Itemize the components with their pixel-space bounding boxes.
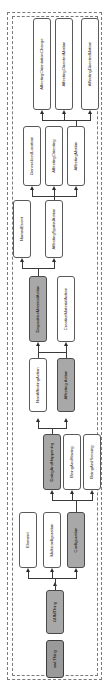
node-non-affecting-action[interactable]: NonAffectingAction bbox=[29, 358, 47, 412]
node-label: NonAffectingAction bbox=[36, 367, 40, 403]
edge-to-dispositive bbox=[38, 346, 39, 353]
node-label: Affecting Action bbox=[64, 371, 68, 400]
arrowhead-beingandsensing bbox=[90, 490, 94, 494]
edge-to-creative bbox=[66, 346, 67, 353]
node-affecting-motion[interactable]: AffectingMotion bbox=[67, 126, 85, 186]
node-label: BeingAndHaving bbox=[70, 446, 74, 477]
node-label: owl:Thing bbox=[53, 650, 57, 668]
arrowhead-element bbox=[26, 568, 30, 572]
diagram-canvas: AffectingOrientationChange AffectingOrie… bbox=[0, 0, 109, 700]
node-being-and-having[interactable]: BeingAndHaving bbox=[63, 434, 81, 490]
node-affecting-oriented-motion[interactable]: AffectingOrientedMotion bbox=[55, 18, 73, 110]
arrowhead-affectingorienting bbox=[52, 186, 56, 190]
node-label: AffectingOrientedMotion bbox=[62, 42, 66, 87]
node-affecting-spatial-action[interactable]: AffectingSpatialAction bbox=[45, 200, 63, 258]
arrowhead-dispositivematerialaction bbox=[36, 342, 40, 346]
arrowhead-configuration bbox=[74, 568, 78, 572]
node-gum-thing[interactable]: GUMThing bbox=[46, 590, 64, 634]
edge-to-orientationchange bbox=[42, 114, 43, 121]
node-generalized-location[interactable]: GeneralizedLocation bbox=[23, 126, 41, 186]
node-label: GeneralizedLocation bbox=[30, 137, 34, 175]
arrowhead-generalizedlocation bbox=[30, 186, 34, 190]
edge-configuration-up bbox=[76, 500, 77, 512]
node-label: AffectingOrientationChange bbox=[40, 38, 44, 89]
node-label: Configuration bbox=[74, 528, 78, 553]
node-label: BeingAndSensing bbox=[90, 445, 94, 478]
node-doing-and-happening[interactable]: DoingAndHappening bbox=[43, 434, 61, 490]
node-label: DispositiveMaterialAction bbox=[36, 286, 40, 333]
node-affecting-orientation-change[interactable]: AffectingOrientationChange bbox=[33, 18, 51, 110]
diagram-inner-frame bbox=[12, 16, 98, 676]
node-owl-thing[interactable]: owl:Thing bbox=[46, 640, 64, 678]
edge-to-generalizedlocation bbox=[32, 190, 33, 197]
arrowhead-namedevent bbox=[20, 258, 24, 262]
edge-to-nonaffectingaction bbox=[38, 422, 39, 429]
edge-to-beingandsensing bbox=[92, 494, 93, 501]
edge-to-namedevent bbox=[22, 262, 23, 269]
node-creative-material-action[interactable]: CreativeMaterialAction bbox=[57, 276, 75, 342]
edge-to-configuration bbox=[76, 572, 77, 579]
arrowhead-creativematerialaction bbox=[64, 342, 68, 346]
arrowhead-affectingspatialaction bbox=[52, 258, 56, 262]
arrowhead-affectingorientationchange bbox=[40, 110, 44, 114]
arrowhead-affectingaction bbox=[64, 418, 68, 422]
node-being-and-sensing[interactable]: BeingAndSensing bbox=[83, 434, 101, 490]
node-named-event[interactable]: NamedEvent bbox=[13, 200, 31, 258]
edge-doingandhappening-bus bbox=[38, 428, 66, 429]
edge-to-affectingspatialaction bbox=[54, 262, 55, 269]
arrowhead-multiconfiguration bbox=[50, 568, 54, 572]
edge-to-beingandhaving bbox=[72, 494, 73, 501]
node-label: CreativeMaterialAction bbox=[64, 288, 68, 330]
edge-to-affectingmotion bbox=[76, 190, 77, 197]
node-label: NamedEvent bbox=[20, 217, 24, 241]
edge-to-element bbox=[28, 572, 29, 579]
edge-to-affectingaction bbox=[66, 422, 67, 429]
node-label: AffectingDirectedMotion bbox=[88, 42, 92, 86]
node-label: DoingAndHappening bbox=[50, 443, 54, 482]
edge-gumthing-up bbox=[55, 578, 56, 588]
arrowhead-doingandhappening bbox=[50, 490, 54, 494]
node-affecting-action[interactable]: Affecting Action bbox=[57, 358, 75, 412]
edge-to-doingandhappening bbox=[52, 494, 53, 501]
edge-to-orientedmotion bbox=[64, 114, 65, 121]
node-label: Element bbox=[26, 532, 30, 547]
node-affecting-directed-motion[interactable]: AffectingDirectedMotion bbox=[81, 18, 99, 110]
edge-to-affectingorienting bbox=[54, 190, 55, 197]
arrowhead-affectingorientedmotion bbox=[62, 110, 66, 114]
node-label: AffectingSpatialAction bbox=[52, 209, 56, 250]
node-label: AffectingMotion bbox=[74, 142, 78, 171]
node-dispositive-material-action[interactable]: DispositiveMaterialAction bbox=[29, 276, 47, 342]
arrowhead-beingandhaving bbox=[70, 490, 74, 494]
node-multiconfiguration[interactable]: Multiconfiguration bbox=[43, 512, 61, 568]
arrowhead-affectingdirectedmotion bbox=[88, 110, 92, 114]
edge-dispositive-bus bbox=[22, 268, 54, 269]
node-element[interactable]: Element bbox=[19, 512, 37, 568]
edge-materialaction-bus bbox=[38, 352, 66, 353]
edge-to-multiconfiguration bbox=[52, 572, 53, 579]
edge-to-directedmotion bbox=[90, 114, 91, 121]
node-label: AffectingOrienting bbox=[52, 139, 56, 172]
node-label: GUMThing bbox=[53, 602, 57, 622]
edge-affectingmotion-bus bbox=[42, 120, 90, 121]
node-affecting-orienting[interactable]: AffectingOrienting bbox=[45, 126, 63, 186]
arrowhead-nonaffectingaction bbox=[36, 418, 40, 422]
arrowhead-affectingmotion bbox=[74, 186, 78, 190]
node-label: Multiconfiguration bbox=[50, 524, 54, 557]
node-configuration[interactable]: Configuration bbox=[67, 512, 85, 568]
